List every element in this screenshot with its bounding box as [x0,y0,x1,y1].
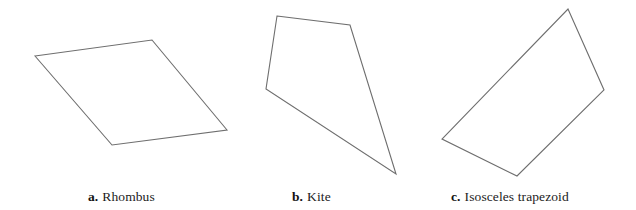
caption-name-rhombus: Rhombus [102,189,154,204]
caption-kite: b.Kite [292,189,331,204]
quadrilaterals-figure: a.Rhombus b.Kite c.Isosceles trapezoid [0,0,636,210]
caption-isosceles-trapezoid: c.Isosceles trapezoid [451,189,569,204]
caption-letter-b: b. [292,189,303,204]
caption-name-kite: Kite [307,189,331,204]
caption-letter-a: a. [88,189,98,204]
shapes-layer [0,0,636,210]
kite-shape [266,16,396,174]
rhombus-shape [35,40,227,145]
caption-name-isosceles-trapezoid: Isosceles trapezoid [465,189,569,204]
isosceles-trapezoid-shape [442,9,604,176]
caption-rhombus: a.Rhombus [88,189,155,204]
caption-letter-c: c. [451,189,461,204]
